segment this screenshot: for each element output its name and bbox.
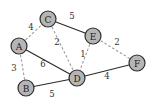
node-label-a: A bbox=[15, 42, 23, 52]
edge-a-d bbox=[19, 46, 77, 78]
node-c: C bbox=[40, 11, 56, 27]
edge-weight-d-f: 4 bbox=[104, 71, 109, 81]
node-label-c: C bbox=[45, 15, 52, 25]
edge-weight-a-c: 4 bbox=[28, 22, 33, 32]
node-a: A bbox=[11, 38, 27, 54]
node-label-e: E bbox=[90, 32, 97, 42]
edge-weight-b-d: 5 bbox=[49, 89, 54, 99]
edge-weight-e-f: 2 bbox=[114, 37, 119, 47]
node-label-d: D bbox=[73, 74, 80, 84]
node-b: B bbox=[18, 80, 34, 96]
node-label-f: F bbox=[134, 59, 140, 69]
edge-weight-a-d: 6 bbox=[40, 59, 45, 69]
node-label-b: B bbox=[23, 84, 30, 94]
node-f: F bbox=[129, 55, 145, 71]
node-d: D bbox=[69, 70, 85, 86]
edge-weight-c-d: 2 bbox=[54, 37, 59, 47]
edge-weight-e-d: 1 bbox=[80, 49, 85, 59]
edge-weight-c-e: 5 bbox=[69, 11, 74, 21]
node-e: E bbox=[85, 28, 101, 44]
weighted-graph-diagram: 452635124 ABCDEF bbox=[0, 0, 158, 105]
edge-weight-a-b: 3 bbox=[11, 63, 16, 73]
